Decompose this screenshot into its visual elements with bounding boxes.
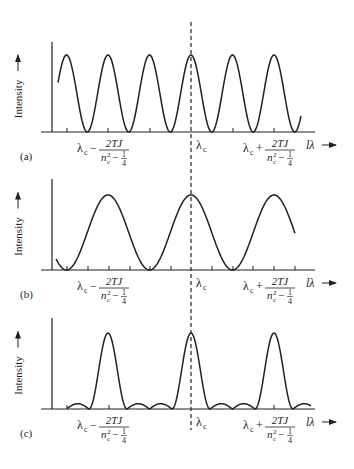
svg-text:1: 1 [288, 150, 292, 159]
svg-text:4: 4 [288, 436, 292, 445]
panel-b: Intensitylλλcλc−2TJn2c−14λc+2TJn2c−14(b) [12, 179, 336, 306]
svg-text:c: c [203, 145, 207, 154]
svg-text:λ: λ [77, 279, 83, 293]
svg-text:4: 4 [288, 297, 292, 306]
svg-text:−: − [90, 279, 97, 293]
x-axis-label: lλ [306, 276, 315, 290]
svg-text:4: 4 [288, 159, 292, 168]
svg-text:Intensity: Intensity [12, 356, 24, 395]
y-axis-label: Intensity [12, 193, 24, 256]
svg-text:−: − [278, 428, 284, 440]
svg-text:−: − [90, 141, 97, 155]
panel-label: (b) [20, 288, 33, 301]
svg-text:1: 1 [122, 288, 126, 297]
upper-bound-label: λc+2TJn2c−14 [243, 137, 295, 168]
svg-text:1: 1 [288, 427, 292, 436]
intensity-curve [67, 333, 311, 409]
svg-text:c: c [84, 286, 88, 295]
svg-text:c: c [84, 148, 88, 157]
svg-text:4: 4 [122, 159, 126, 168]
y-axis-label: Intensity [12, 332, 24, 395]
svg-text:c: c [273, 158, 276, 166]
svg-text:2TJ: 2TJ [106, 137, 124, 149]
y-axis-label: Intensity [12, 55, 24, 118]
upper-bound-label: λc+2TJn2c−14 [243, 275, 295, 306]
svg-text:Intensity: Intensity [12, 217, 24, 256]
lower-bound-label: λc−2TJn2c−14 [77, 414, 129, 445]
intensity-curve [58, 55, 301, 132]
svg-text:−: − [278, 151, 284, 163]
upper-bound-label: λc+2TJn2c−14 [243, 414, 295, 445]
center-wavelength-label: λ [196, 415, 202, 429]
svg-text:λ: λ [77, 418, 83, 432]
svg-text:1: 1 [122, 150, 126, 159]
svg-text:1: 1 [122, 427, 126, 436]
svg-text:−: − [90, 418, 97, 432]
svg-text:c: c [250, 148, 254, 157]
svg-text:λ: λ [243, 279, 249, 293]
lower-bound-label: λc−2TJn2c−14 [77, 275, 129, 306]
svg-text:c: c [250, 286, 254, 295]
svg-text:4: 4 [122, 436, 126, 445]
svg-text:λ: λ [77, 141, 83, 155]
svg-text:+: + [256, 418, 263, 432]
svg-text:−: − [112, 428, 118, 440]
panel-label: (a) [20, 150, 33, 163]
svg-text:c: c [107, 435, 110, 443]
svg-text:2TJ: 2TJ [106, 275, 124, 287]
svg-text:c: c [107, 296, 110, 304]
lower-bound-label: λc−2TJn2c−14 [77, 137, 129, 168]
svg-text:λ: λ [243, 418, 249, 432]
svg-text:4: 4 [122, 297, 126, 306]
center-wavelength-label: λ [196, 138, 202, 152]
svg-text:c: c [107, 158, 110, 166]
svg-text:c: c [203, 422, 207, 431]
svg-text:−: − [112, 151, 118, 163]
panel-a: Intensitylλλcλc−2TJn2c−14λc+2TJn2c−14(a) [12, 42, 336, 168]
svg-text:2TJ: 2TJ [106, 414, 124, 426]
panel-label: (c) [20, 427, 33, 440]
svg-text:λ: λ [243, 141, 249, 155]
svg-text:1: 1 [288, 288, 292, 297]
panel-c: Intensitylλλcλc−2TJn2c−14λc+2TJn2c−14(c) [12, 318, 336, 445]
svg-text:c: c [84, 425, 88, 434]
center-wavelength-label: λ [196, 276, 202, 290]
svg-text:2TJ: 2TJ [272, 414, 290, 426]
svg-text:2TJ: 2TJ [272, 137, 290, 149]
svg-text:Intensity: Intensity [12, 79, 24, 118]
interference-figure: Intensitylλλcλc−2TJn2c−14λc+2TJn2c−14(a)… [0, 0, 354, 469]
x-axis-label: lλ [306, 138, 315, 152]
x-axis-label: lλ [306, 415, 315, 429]
svg-text:−: − [112, 289, 118, 301]
svg-text:c: c [250, 425, 254, 434]
svg-text:2TJ: 2TJ [272, 275, 290, 287]
svg-text:c: c [273, 435, 276, 443]
svg-text:−: − [278, 289, 284, 301]
svg-text:+: + [256, 279, 263, 293]
svg-text:+: + [256, 141, 263, 155]
svg-text:c: c [273, 296, 276, 304]
svg-text:c: c [203, 283, 207, 292]
intensity-curve [56, 195, 295, 270]
